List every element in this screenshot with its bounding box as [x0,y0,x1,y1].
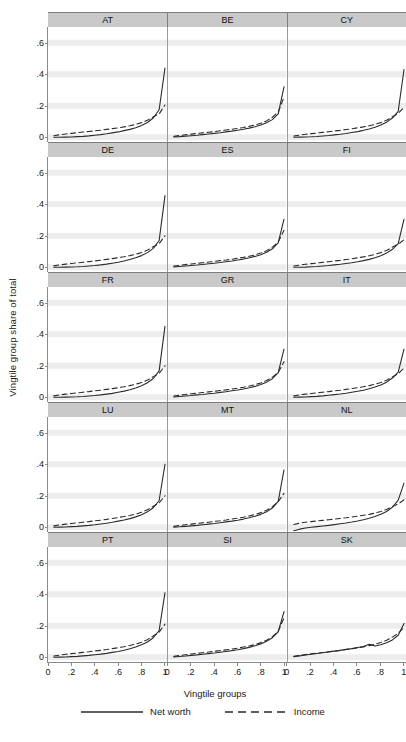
y-tick-label: .2 [36,361,44,371]
series-line-income [293,500,403,525]
y-tick-label: 0 [39,652,44,662]
y-axis-ticks: 0.2.4.6 [24,532,48,662]
x-axis-ticks: 0.2.4.6.810.2.4.6.810.2.4.6.81 [48,663,406,685]
panel-plot-area [48,27,167,142]
y-tick-label: .6 [36,558,44,568]
panel-label: GR [221,276,235,285]
panel-svg [48,417,167,532]
panel-label: IT [343,276,351,285]
panel-gr: GR [167,272,286,402]
x-tick-label: 0 [45,667,50,677]
x-tick-mark [286,663,287,666]
x-tick-label: .4 [91,667,99,677]
panel-plot-area [287,547,406,662]
x-axis-title: Vingtile groups [24,688,406,699]
series-line-net-worth [293,483,403,531]
x-tick-label: .4 [330,667,338,677]
x-tick-mark [260,663,261,666]
y-tick-label: .6 [36,428,44,438]
panel-label: SK [341,536,353,545]
y-tick-label: 0 [39,522,44,532]
x-tick-label: 1 [401,667,406,677]
series-line-net-worth [174,612,284,657]
panel-sk: SK [287,532,406,662]
x-tick-mark [94,663,95,666]
x-tick-mark [48,663,49,666]
panel-svg [288,417,406,532]
panel-fr: FR [48,272,167,402]
panel-plot-area [287,417,406,532]
panel-svg [288,287,406,402]
panel-plot-area [287,287,406,402]
y-tick-label: .2 [36,491,44,501]
panel-svg [168,287,286,402]
panel-plot-area [48,287,167,402]
legend-item-net-worth: Net worth [81,706,191,717]
panel-svg [48,547,167,662]
y-tick-label: 0 [39,262,44,272]
panel-plot-area [287,27,406,142]
y-axis-title: Vingtile group share of total [0,0,24,674]
x-tick-label: .8 [376,667,384,677]
series-line-net-worth [293,349,403,397]
x-tick-label: .2 [306,667,314,677]
y-tick-label: 0 [39,132,44,142]
x-tick-label: .6 [234,667,242,677]
panel-pt: PT [48,532,167,662]
panel-lu: LU [48,402,167,532]
panel-nl: NL [287,402,406,532]
x-tick-mark [356,663,357,666]
panel-svg [288,157,406,272]
y-axis-ticks: 0.2.4.6 [24,272,48,402]
y-tick-label: .4 [36,589,44,599]
panel-plot-area [167,547,286,662]
panel-label: PT [102,536,114,545]
x-tick-mark [237,663,238,666]
x-tick-label: .2 [187,667,195,677]
x-tick-label: 0 [284,667,289,677]
panel-row-panels: LUMTNL [48,402,406,532]
x-tick-mark [310,663,311,666]
y-axis-ticks: 0.2.4.6 [24,142,48,272]
x-tick-label: .8 [138,667,146,677]
y-tick-label: .6 [36,298,44,308]
x-tick-label: 0 [165,667,170,677]
y-tick-label: .4 [36,199,44,209]
legend-label-net-worth: Net worth [150,706,191,717]
panel-label: LU [102,406,114,415]
x-tick-mark [380,663,381,666]
x-tick-mark [164,663,165,666]
panel-svg [168,417,286,532]
panel-svg [48,287,167,402]
panel-plot-area [167,27,286,142]
panel-grid: 0.2.4.6ATBECY0.2.4.6DEESFI0.2.4.6FRGRIT0… [24,0,406,700]
panel-de: DE [48,142,167,272]
series-line-net-worth [293,219,403,267]
y-tick-label: 0 [39,392,44,402]
series-line-income [54,236,165,266]
panel-svg [168,27,286,142]
x-axis-cell: 0.2.4.6.81 [167,663,286,685]
x-tick-mark [284,663,285,666]
panel-row: 0.2.4.6DEESFI [24,142,406,272]
y-tick-label: .6 [36,38,44,48]
panel-svg [168,157,286,272]
x-tick-mark [403,663,404,666]
x-tick-mark [190,663,191,666]
panel-si: SI [167,532,286,662]
x-tick-label: .8 [257,667,265,677]
legend-swatch-dashed [225,708,287,716]
panel-row-panels: FRGRIT [48,272,406,402]
x-tick-label: .6 [114,667,122,677]
y-axis-ticks: 0.2.4.6 [24,402,48,532]
y-tick-label: .2 [36,621,44,631]
panel-at: AT [48,12,167,142]
panel-label: FI [343,146,351,155]
x-tick-mark [333,663,334,666]
panel-label: NL [341,406,353,415]
panel-row: 0.2.4.6PTSISK [24,532,406,662]
y-axis-ticks: 0.2.4.6 [24,12,48,142]
panel-label: AT [102,16,113,25]
series-line-net-worth [54,68,165,137]
panel-label: DE [101,146,114,155]
